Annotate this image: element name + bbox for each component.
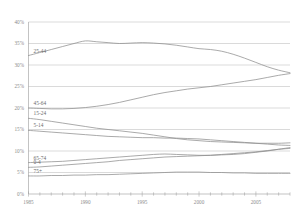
x-tick-label: 1995	[137, 199, 148, 205]
series-label-15-24: 15-24	[34, 110, 47, 116]
series-lines	[29, 41, 291, 176]
y-tick-label: 0%	[17, 191, 25, 197]
gridlines	[29, 22, 291, 173]
series-label-5-14: 5-14	[34, 122, 44, 128]
series-line-15-24	[29, 118, 291, 143]
y-tick-label: 20%	[14, 105, 24, 111]
series-label-0-4: 0-4	[34, 159, 41, 165]
y-tick-label: 5%	[17, 169, 25, 175]
series-line-65-74	[29, 148, 291, 163]
y-tick-label: 10%	[14, 148, 24, 154]
series-label-25-44: 25-44	[34, 48, 47, 54]
series-inline-labels: 25-4445-6415-245-1465-740-475+	[34, 48, 47, 174]
y-tick-label: 30%	[14, 62, 24, 68]
x-tick-label: 2000	[194, 199, 205, 205]
x-tick-label: 1985	[23, 199, 34, 205]
y-tick-label: 40%	[14, 19, 24, 25]
y-axis-tick-labels: 40%35%30%25%20%15%10%5%0%	[14, 19, 24, 197]
x-axis-tick-labels: 19851990199520002005	[23, 199, 261, 205]
series-label-75+: 75+	[34, 168, 42, 174]
series-line-45-64	[29, 74, 291, 109]
chart-canvas: 40%35%30%25%20%15%10%5%0% 19851990199520…	[0, 0, 298, 223]
series-line-5-14	[29, 130, 291, 145]
series-line-0-4	[29, 148, 291, 167]
line-chart: 40%35%30%25%20%15%10%5%0% 19851990199520…	[0, 0, 298, 223]
x-tick-label: 1990	[80, 199, 91, 205]
x-tick-label: 2005	[251, 199, 262, 205]
series-line-25-44	[29, 41, 291, 73]
y-tick-label: 25%	[14, 83, 24, 89]
series-label-45-64: 45-64	[34, 100, 47, 106]
y-tick-label: 35%	[14, 40, 24, 46]
y-tick-label: 15%	[14, 126, 24, 132]
